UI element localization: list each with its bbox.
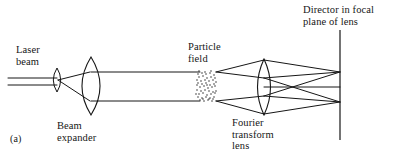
particle-dot	[204, 71, 206, 73]
converging-ray	[216, 72, 264, 78]
particle-dot	[201, 72, 203, 74]
particle-dot	[202, 98, 204, 100]
expander-cone-ray	[58, 72, 90, 80]
particle-dot	[197, 96, 199, 98]
particle-dot	[196, 84, 198, 86]
output-ray	[264, 78, 340, 102]
particle-dot	[206, 77, 208, 79]
expander-cone-ray	[58, 80, 90, 101]
particle-dot	[201, 83, 203, 85]
particle-dot	[197, 73, 199, 75]
particle-dot	[212, 91, 214, 93]
laser-beam-rays	[8, 78, 57, 85]
particle-dot	[211, 100, 213, 102]
particle-dot	[196, 79, 198, 81]
particle-dot	[206, 94, 208, 96]
particle-dot	[195, 93, 197, 95]
particle-dot	[207, 87, 209, 89]
optical-diagram-figure: Laser beam Beam expander Particle field …	[0, 0, 393, 157]
particle-dot	[196, 89, 198, 91]
particle-dot	[200, 90, 202, 92]
particle-dot	[214, 92, 216, 94]
particle-dot	[205, 96, 207, 98]
particle-dot	[203, 100, 205, 102]
output-ray	[264, 60, 340, 72]
particle-dot	[210, 93, 212, 95]
particle-dot	[204, 89, 206, 91]
particle-dot	[215, 81, 217, 83]
particle-dot	[210, 76, 212, 78]
label-particle-field: Particle field	[188, 41, 221, 64]
particle-dot	[206, 84, 208, 86]
output-ray	[264, 72, 340, 96]
converging-ray	[216, 101, 264, 114]
particle-dot	[209, 72, 211, 74]
output-diffracted-rays	[264, 60, 340, 114]
particle-dot	[208, 90, 210, 92]
particle-dot	[210, 70, 212, 72]
panel-label: (a)	[10, 133, 21, 145]
label-beam-expander: Beam expander	[57, 120, 96, 143]
particle-dot	[209, 84, 211, 86]
output-ray	[264, 72, 340, 78]
particle-dot	[212, 79, 214, 81]
particle-dot	[203, 85, 205, 87]
converging-ray	[216, 60, 264, 72]
particle-dot	[198, 76, 200, 78]
particle-dot	[211, 86, 213, 88]
particle-dot	[213, 96, 215, 98]
particle-dot	[197, 82, 199, 84]
label-laser-beam: Laser beam	[16, 44, 40, 67]
label-fourier-transform-lens: Fourier transform lens	[232, 117, 274, 152]
label-detector-plane: Director in focal plane of lens	[303, 4, 374, 27]
particle-dot	[205, 73, 207, 75]
particle-dot	[208, 98, 210, 100]
particle-dot	[198, 93, 200, 95]
particle-dot	[198, 70, 200, 72]
beam-expander-output-lens	[82, 57, 100, 115]
particle-dot	[202, 92, 204, 94]
converging-rays	[216, 60, 264, 114]
converging-ray	[216, 96, 264, 101]
output-ray	[264, 96, 340, 102]
particle-dot	[204, 79, 206, 81]
particle-dot	[199, 99, 201, 101]
particle-dot	[213, 74, 215, 76]
particle-dot	[202, 75, 204, 77]
particle-dot	[214, 85, 216, 87]
particle-dot	[200, 80, 202, 82]
collimated-beam-rays	[91, 72, 200, 101]
particle-dot	[208, 80, 210, 82]
output-ray	[264, 102, 340, 114]
big-lens-outline	[82, 57, 100, 115]
particle-dot	[213, 83, 215, 85]
beam-expander-cone-rays	[58, 72, 90, 101]
particle-dot	[212, 98, 214, 100]
particle-dot	[215, 90, 217, 92]
particle-dot	[199, 86, 201, 88]
particle-dot	[214, 77, 216, 79]
particle-dot	[205, 82, 207, 84]
particle-field-stipple	[195, 70, 217, 102]
